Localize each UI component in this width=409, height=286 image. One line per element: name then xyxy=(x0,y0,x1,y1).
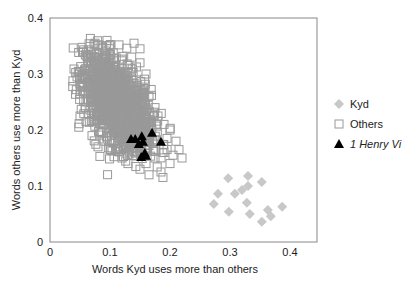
kyd-point xyxy=(213,189,223,199)
kyd-point xyxy=(242,198,252,208)
square-icon xyxy=(335,120,343,128)
others-point xyxy=(115,41,123,49)
x-axis: 00.10.20.30.4 xyxy=(47,246,298,258)
others-point xyxy=(145,171,153,179)
others-point xyxy=(69,44,77,52)
kyd-point xyxy=(209,199,219,209)
kyd-point xyxy=(277,202,287,212)
x-tick-label: 0 xyxy=(47,246,53,258)
y-tick-label: 0.3 xyxy=(28,68,43,80)
kyd-point xyxy=(223,173,233,183)
others-point xyxy=(104,171,112,179)
legend-label: Kyd xyxy=(350,98,369,110)
kyd-point xyxy=(257,177,267,187)
y-tick-label: 0 xyxy=(37,236,43,248)
others-point xyxy=(169,151,177,159)
x-tick-label: 0.4 xyxy=(282,246,297,258)
others-point xyxy=(159,173,167,181)
kyd-point xyxy=(224,207,234,217)
triangle-icon xyxy=(334,139,344,148)
others-point xyxy=(175,146,183,154)
diamond-icon xyxy=(334,99,344,109)
y-tick-label: 0.2 xyxy=(28,124,43,136)
legend-label: Others xyxy=(350,118,384,130)
legend: Kyd Others 1 Henry Vi xyxy=(334,98,402,150)
x-tick-label: 0.1 xyxy=(102,246,117,258)
scatter-chart: 00.10.20.30.4 00.10.20.30.4 Words Kyd us… xyxy=(0,0,409,286)
others-point xyxy=(136,45,144,53)
others-point xyxy=(178,154,186,162)
others-point xyxy=(96,152,104,160)
legend-item-1-henry-vi: 1 Henry Vi xyxy=(334,138,402,150)
x-axis-label: Words Kyd uses more than others xyxy=(92,263,259,275)
plot-area xyxy=(69,34,287,226)
legend-item-kyd: Kyd xyxy=(334,98,369,110)
others-point xyxy=(166,160,174,168)
legend-label: 1 Henry Vi xyxy=(350,138,402,150)
kyd-point xyxy=(243,171,253,181)
kyd-point xyxy=(245,209,255,219)
x-tick-label: 0.3 xyxy=(222,246,237,258)
y-tick-label: 0.1 xyxy=(28,180,43,192)
y-axis: 00.10.20.30.4 xyxy=(28,12,43,248)
y-tick-label: 0.4 xyxy=(28,12,43,24)
others-point xyxy=(172,137,180,145)
y-axis-label: Words others use more than Kyd xyxy=(10,50,22,211)
x-tick-label: 0.2 xyxy=(162,246,177,258)
legend-item-others: Others xyxy=(335,118,384,130)
kyd-point xyxy=(257,217,267,227)
